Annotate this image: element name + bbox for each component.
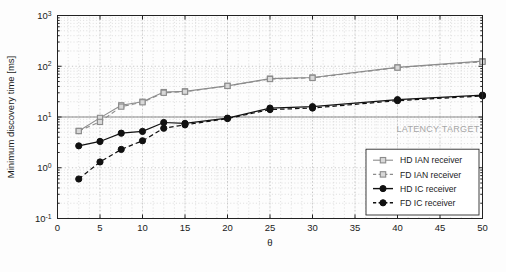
x-tick-label: 50 (477, 222, 488, 233)
figure-canvas: LATENCY TARGET 05101520253035404550 10-1… (0, 0, 506, 272)
x-tick-label: 35 (350, 222, 361, 233)
legend-marker (380, 172, 385, 177)
x-tick-label: 25 (265, 222, 276, 233)
data-point (309, 105, 315, 111)
x-tick-label: 5 (97, 222, 102, 233)
data-point (161, 90, 166, 95)
data-point (161, 119, 167, 125)
data-point (76, 128, 81, 133)
data-point (224, 115, 230, 121)
data-point (267, 106, 273, 112)
data-point (395, 65, 400, 70)
data-point (139, 128, 145, 134)
x-tick-label: 15 (180, 222, 191, 233)
x-tick-label: 20 (222, 222, 233, 233)
legend-label: HD IAN receiver (400, 155, 462, 165)
data-point (267, 76, 272, 81)
minimum-discovery-time-chart: LATENCY TARGET 05101520253035404550 10-1… (0, 0, 506, 272)
data-point (76, 176, 82, 182)
data-point (97, 159, 103, 165)
data-point (140, 100, 145, 105)
x-tick-label: 10 (137, 222, 148, 233)
legend-label: FD IC receiver (400, 198, 456, 208)
legend-marker (380, 200, 386, 206)
chart-legend[interactable]: HD IAN receiverFD IAN receiverHD IC rece… (366, 149, 479, 215)
legend-marker (380, 158, 385, 163)
data-point (118, 130, 124, 136)
data-point (118, 146, 124, 152)
x-axis-title: θ (267, 237, 272, 248)
chart-background (0, 0, 506, 272)
latency-target-label: LATENCY TARGET (396, 124, 479, 134)
x-tick-label: 45 (435, 222, 446, 233)
data-point (97, 138, 103, 144)
data-point (76, 143, 82, 149)
data-point (161, 125, 167, 131)
data-point (310, 75, 315, 80)
x-tick-label: 40 (392, 222, 403, 233)
legend-marker (380, 186, 386, 192)
y-axis-title: Minimum discovery time [ms] (5, 56, 16, 178)
x-tick-label: 0 (55, 222, 60, 233)
data-point (97, 119, 102, 124)
data-point (394, 98, 400, 104)
legend-label: HD IC receiver (400, 184, 456, 194)
data-point (225, 83, 230, 88)
data-point (182, 89, 187, 94)
data-point (182, 122, 188, 128)
legend-label: FD IAN receiver (400, 170, 461, 180)
data-point (139, 138, 145, 144)
data-point (119, 104, 124, 109)
x-tick-label: 30 (307, 222, 318, 233)
